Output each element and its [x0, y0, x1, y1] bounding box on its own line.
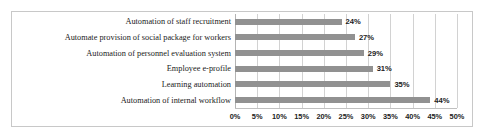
bar-value-label: 27%	[359, 33, 374, 42]
plot-area: 24% 27% 29% 31% 35% 44%	[235, 14, 457, 108]
bar	[235, 34, 355, 40]
x-tick-label: 40%	[405, 112, 420, 121]
category-label: Automation of internal workflow	[12, 96, 235, 105]
x-tick-label: 10%	[272, 112, 287, 121]
x-tick-label: 45%	[427, 112, 442, 121]
bar-row: 35%	[235, 78, 457, 91]
x-tick-label: 25%	[339, 112, 354, 121]
x-tick-label: 30%	[361, 112, 376, 121]
x-tick-label: 15%	[294, 112, 309, 121]
x-tick-label: 5%	[252, 112, 263, 121]
bar	[235, 50, 364, 56]
chart-container: Automation of staff recruitment Automate…	[11, 11, 473, 127]
category-label: Automate provision of social package for…	[12, 33, 235, 42]
bar-value-label: 29%	[368, 49, 383, 58]
bar-row: 29%	[235, 47, 457, 60]
category-axis-labels: Automation of staff recruitment Automate…	[12, 14, 235, 108]
bar	[235, 97, 430, 103]
x-axis-line	[235, 108, 457, 109]
bar-series: 24% 27% 29% 31% 35% 44%	[235, 14, 457, 108]
category-label: Learning automation	[12, 80, 235, 89]
bar-value-label: 24%	[346, 17, 361, 26]
bar-value-label: 44%	[434, 96, 449, 105]
x-tick-label: 20%	[316, 112, 331, 121]
bar-row: 31%	[235, 62, 457, 75]
bar	[235, 81, 390, 87]
category-label: Employee e-profile	[12, 64, 235, 73]
bar-value-label: 35%	[394, 80, 409, 89]
bar-row: 44%	[235, 94, 457, 107]
x-tick-label: 35%	[383, 112, 398, 121]
bar-row: 24%	[235, 15, 457, 28]
bar-value-label: 31%	[377, 64, 392, 73]
category-label: Automation of personnel evaluation syste…	[12, 49, 235, 58]
category-label: Automation of staff recruitment	[12, 17, 235, 26]
x-tick-label: 0%	[230, 112, 241, 121]
bar	[235, 19, 342, 25]
x-axis: 0%5%10%15%20%25%30%35%40%45%50%	[235, 108, 457, 126]
bar-row: 27%	[235, 31, 457, 44]
bar	[235, 66, 373, 72]
gridline	[457, 14, 458, 108]
x-tick-label: 50%	[450, 112, 465, 121]
